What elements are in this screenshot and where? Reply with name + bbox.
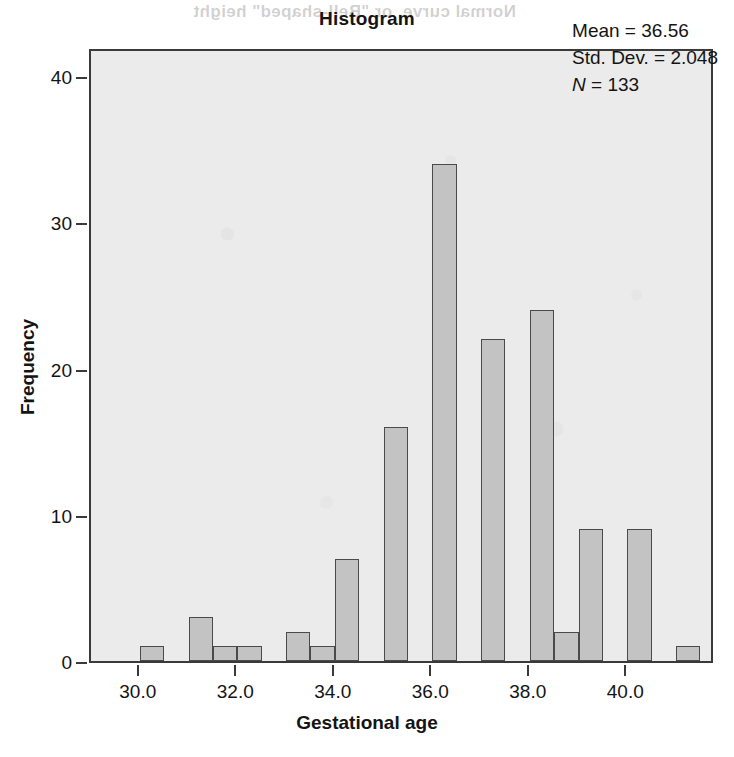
x-tick-label: 32.0 [200,681,270,703]
stat-n-value: = 133 [586,74,639,95]
histogram-bar [554,632,578,661]
y-tick-mark [76,223,87,225]
y-tick-label: 10 [34,506,72,528]
y-tick-mark [76,77,87,79]
histogram-bar [335,559,359,661]
histogram-bar [213,646,237,661]
stat-n-symbol: N [572,74,586,95]
x-tick-label: 40.0 [590,681,660,703]
histogram-bar [384,427,408,661]
stats-annotation: Mean = 36.56 Std. Dev. = 2.048 N = 133 [572,18,718,99]
y-tick-mark [76,516,87,518]
histogram-bar [676,646,700,661]
y-tick-label: 0 [34,652,72,674]
y-tick-label: 40 [34,67,72,89]
histogram-bar [579,529,603,661]
y-tick-mark [76,370,87,372]
histogram-chart: Histogram Frequency Mean = 36.56 Std. De… [0,0,734,757]
x-tick-mark [527,665,529,676]
x-tick-label: 30.0 [103,681,173,703]
x-tick-mark [624,665,626,676]
plot-area [89,49,713,663]
stat-std-dev: Std. Dev. = 2.048 [572,45,718,72]
x-tick-label: 36.0 [395,681,465,703]
x-tick-mark [234,665,236,676]
y-tick-label: 20 [34,360,72,382]
stat-n: N = 133 [572,72,718,99]
histogram-bar [432,164,456,661]
y-tick-label: 30 [34,213,72,235]
x-tick-mark [429,665,431,676]
x-tick-mark [137,665,139,676]
x-tick-label: 38.0 [493,681,563,703]
y-tick-mark [76,662,87,664]
histogram-bar [189,617,213,661]
x-tick-label: 34.0 [298,681,368,703]
x-axis-title: Gestational age [0,712,734,734]
histogram-bar [627,529,651,661]
histogram-bar [237,646,261,661]
histogram-bar [481,339,505,661]
histogram-bar [140,646,164,661]
histogram-bar [530,310,554,661]
histogram-bar [286,632,310,661]
stat-mean: Mean = 36.56 [572,18,718,45]
x-tick-mark [332,665,334,676]
histogram-bar [310,646,334,661]
